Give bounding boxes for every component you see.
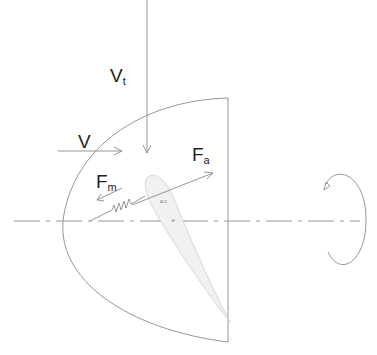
v-label: V bbox=[78, 132, 91, 151]
fa-arrowhead-icon bbox=[204, 172, 213, 179]
diagram-canvas: Vt V Fa Fm a.c e bbox=[0, 0, 377, 355]
diagram-svg bbox=[0, 0, 377, 355]
ac-point-label: a.c bbox=[160, 199, 167, 204]
fa-label: Fa bbox=[192, 145, 210, 166]
vt-label: Vt bbox=[110, 66, 126, 87]
rotation-arrow bbox=[326, 174, 366, 264]
airfoil bbox=[145, 175, 230, 322]
fm-label: Fm bbox=[96, 172, 117, 193]
e-point-label: e bbox=[172, 218, 175, 223]
rotation-arrowhead-icon bbox=[324, 182, 330, 190]
